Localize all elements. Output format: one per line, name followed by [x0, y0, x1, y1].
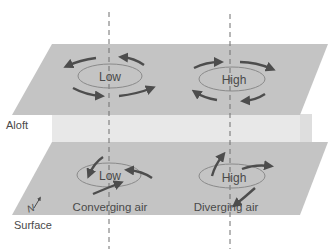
- surface-level-label: Surface: [14, 219, 52, 231]
- aloft-level-label: Aloft: [6, 119, 28, 131]
- surface-low-label: Low: [99, 169, 121, 183]
- converging-air-caption: Converging air: [73, 201, 148, 213]
- surface-plane: [12, 142, 328, 215]
- aloft-plane: [12, 44, 328, 115]
- aloft-low-label: Low: [99, 70, 121, 84]
- gap-volume: [52, 114, 312, 143]
- aloft-high-label: High: [222, 73, 247, 87]
- pressure-systems-diagram: Low High Low High Converging air Divergi…: [0, 0, 334, 249]
- surface-high-label: High: [222, 171, 247, 185]
- diagram-canvas: Low High Low High Converging air Divergi…: [0, 0, 334, 249]
- diverging-air-caption: Diverging air: [194, 201, 259, 213]
- gap-side: [300, 114, 312, 143]
